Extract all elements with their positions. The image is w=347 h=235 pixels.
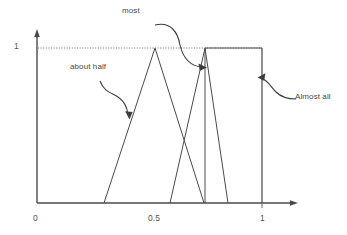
curve-about-half [104,48,204,203]
x-tick-label-0: 0 [33,213,38,223]
fuzzy-membership-figure: 1 0 0.5 1 most about half Almost all [0,0,347,235]
y-tick-label-1: 1 [14,41,19,51]
x-tick-label-0-5: 0.5 [148,213,160,223]
curve-almost-all [205,48,262,203]
x-tick-label-1: 1 [260,213,265,223]
plot-canvas [0,0,347,235]
arrow-most [155,24,202,67]
annotation-label-almost-all: Almost all [295,92,331,101]
arrow-almost-all [263,79,296,99]
annotation-label-about-half: about half [70,62,106,71]
arrow-most-head-icon [199,64,208,71]
annotation-label-most: most [122,6,140,15]
y-axis-arrow-icon [34,29,40,37]
x-axis-arrow-icon [290,200,298,206]
arrow-almost-all-head-icon [258,73,266,80]
arrow-about-half [100,81,128,114]
curve-most [170,48,205,203]
